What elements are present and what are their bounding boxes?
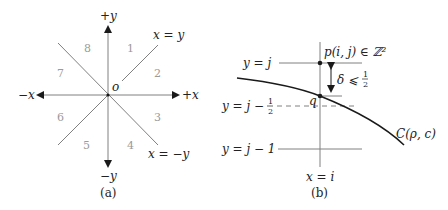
- figure: +y −y +x −x o x = y x = −y 1 2 3 4 5 6 7…: [0, 0, 448, 210]
- panel-b: p(i, j) ∈ ℤ² q δ ⩽ 1 2 y = j y = j − 1 2…: [221, 42, 436, 200]
- octant-5: 5: [83, 139, 90, 152]
- label-neg-y: −y: [100, 169, 117, 183]
- origin-point: [106, 93, 109, 96]
- delta-half-den: 2: [363, 80, 368, 89]
- octant-1: 1: [127, 42, 134, 55]
- half-den: 2: [268, 107, 273, 116]
- label-y-eq-j: y = j: [242, 56, 271, 70]
- point-q: [318, 94, 323, 99]
- label-x-eq-y: x = y: [153, 28, 184, 42]
- panel-a: +y −y +x −x o x = y x = −y 1 2 3 4 5 6 7…: [18, 9, 199, 200]
- label-delta: δ ⩽: [337, 73, 359, 87]
- caption-b: (b): [311, 186, 328, 200]
- octant-7: 7: [57, 67, 64, 80]
- label-x-eq-neg-y: x = −y: [148, 147, 190, 161]
- octant-3: 3: [154, 111, 161, 124]
- label-point-q: q: [309, 94, 317, 108]
- octant-4: 4: [127, 139, 134, 152]
- diagonal-x-eq-y-lower: [58, 95, 108, 145]
- label-pos-x: +x: [182, 88, 199, 102]
- label-neg-x: −x: [18, 88, 35, 102]
- label-pos-y: +y: [100, 9, 117, 23]
- label-y-eq-j-minus-half: y = j −: [221, 99, 264, 113]
- delta-half-num: 1: [363, 70, 368, 79]
- label-curve: C(ρ, c): [396, 127, 436, 141]
- point-p: [318, 61, 323, 66]
- label-y-eq-j-minus-1: y = j − 1: [221, 142, 276, 156]
- octant-6: 6: [57, 111, 64, 124]
- label-x-eq-i: x = i: [306, 170, 334, 184]
- label-point-p: p(i, j) ∈ ℤ²: [324, 45, 387, 59]
- label-origin: o: [112, 80, 119, 94]
- octant-8: 8: [84, 42, 91, 55]
- octant-2: 2: [154, 67, 161, 80]
- caption-a: (a): [100, 186, 117, 200]
- half-num: 1: [268, 97, 273, 106]
